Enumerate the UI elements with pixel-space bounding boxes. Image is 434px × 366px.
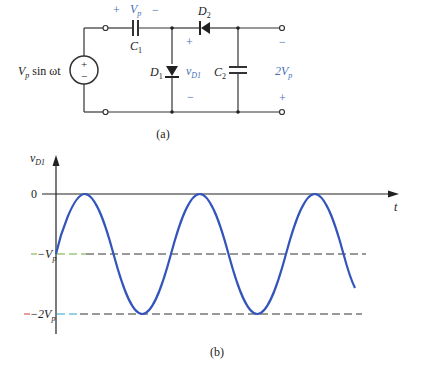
junction-dot (236, 26, 240, 30)
x-axis-label: t (394, 200, 398, 214)
junction-dot (170, 26, 174, 30)
d2-label: D2 (197, 4, 211, 20)
x-axis-arrow-icon (388, 191, 399, 198)
vd1-plus: + (186, 35, 193, 49)
source-plus: + (81, 58, 87, 70)
diode-d2-icon (200, 21, 210, 35)
diode-d1-icon (165, 66, 179, 77)
caption-a: (a) (156, 127, 169, 141)
c1-voltage-minus: − (152, 3, 159, 17)
junction-dot (170, 110, 174, 114)
source-label: Vp sin ωt (18, 64, 61, 80)
output-minus: − (279, 35, 286, 49)
terminal (280, 110, 285, 115)
c1-voltage-label: Vp (130, 2, 141, 18)
vd1-label: vD1 (186, 64, 201, 80)
d1-label: D1 (149, 65, 163, 81)
caption-b: (b) (210, 345, 224, 359)
junction-dot (236, 110, 240, 114)
vd1-minus: − (187, 90, 194, 104)
c2-label: C2 (214, 65, 226, 81)
terminal (103, 26, 108, 31)
tick-label-minus-vp: −Vp (37, 247, 56, 263)
y-axis-arrow-icon (53, 155, 60, 166)
output-plus: + (279, 91, 286, 105)
source-minus: − (81, 70, 87, 82)
output-voltage-label: 2Vp (275, 64, 292, 80)
tick-label-minus-2vp: −2Vp (30, 307, 55, 323)
c1-label: C1 (130, 39, 142, 55)
c1-voltage-plus: + (113, 3, 120, 17)
tick-label-zero: 0 (31, 187, 37, 201)
terminal (103, 110, 108, 115)
y-axis-label: vD1 (30, 151, 45, 167)
terminal (280, 26, 285, 31)
